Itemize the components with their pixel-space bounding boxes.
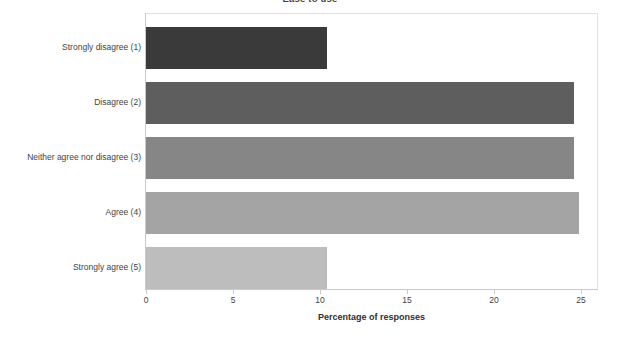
bar bbox=[146, 247, 327, 289]
bar-fill bbox=[146, 247, 327, 289]
x-tick-label: 25 bbox=[576, 295, 585, 305]
x-tick-mark bbox=[320, 290, 321, 294]
chart-figure: Ease to use Strongly disagree (1)Disagre… bbox=[0, 0, 620, 338]
x-tick-mark bbox=[494, 290, 495, 294]
bar-fill bbox=[146, 137, 574, 179]
category-label: Strongly disagree (1) bbox=[3, 43, 141, 52]
y-axis-labels: Strongly disagree (1)Disagree (2)Neither… bbox=[0, 0, 141, 338]
category-label: Agree (4) bbox=[3, 208, 141, 217]
x-tick-label: 5 bbox=[231, 295, 236, 305]
category-label: Neither agree nor disagree (3) bbox=[3, 153, 141, 162]
x-tick-label: 20 bbox=[489, 295, 498, 305]
bar bbox=[146, 192, 579, 234]
bar-fill bbox=[146, 192, 579, 234]
x-tick-label: 10 bbox=[315, 295, 324, 305]
bar-fill bbox=[146, 27, 327, 69]
category-label: Strongly agree (5) bbox=[3, 263, 141, 272]
bar bbox=[146, 137, 574, 179]
bar-fill bbox=[146, 82, 574, 124]
x-tick-label: 15 bbox=[402, 295, 411, 305]
x-tick-label: 0 bbox=[144, 295, 149, 305]
x-tick-mark bbox=[407, 290, 408, 294]
bar bbox=[146, 82, 574, 124]
x-axis-title: Percentage of responses bbox=[145, 312, 598, 322]
x-tick-mark bbox=[233, 290, 234, 294]
x-tick-mark bbox=[146, 290, 147, 294]
bar bbox=[146, 27, 327, 69]
category-label: Disagree (2) bbox=[3, 98, 141, 107]
x-tick-mark bbox=[581, 290, 582, 294]
x-axis-line bbox=[145, 289, 598, 290]
